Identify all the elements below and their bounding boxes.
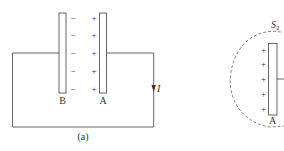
charge-plus: + bbox=[261, 74, 266, 84]
charge-plus: + bbox=[91, 48, 96, 58]
charge-plus: + bbox=[261, 59, 266, 69]
plate-a-label: A bbox=[99, 95, 107, 106]
surface-subscript: 2 bbox=[276, 24, 280, 32]
charge-minus: − bbox=[70, 30, 75, 40]
charge-minus: − bbox=[70, 13, 75, 23]
plate-a-right bbox=[269, 44, 278, 116]
plate-a bbox=[100, 13, 107, 93]
charge-plus: + bbox=[261, 89, 266, 99]
charge-plus: + bbox=[91, 66, 96, 76]
current-label: I bbox=[156, 83, 161, 94]
plate-a-charges: + + + + + bbox=[91, 13, 96, 94]
charge-minus: − bbox=[70, 84, 75, 94]
plate-b-label: B bbox=[59, 95, 66, 106]
plate-a-right-label: A bbox=[269, 115, 277, 126]
charge-minus: − bbox=[70, 48, 75, 58]
charge-plus: + bbox=[91, 13, 96, 23]
plate-b-charges: − − − − − bbox=[70, 13, 75, 94]
panel-a-caption: (a) bbox=[77, 131, 88, 143]
surface-label: S2 bbox=[271, 19, 280, 32]
charge-plus: + bbox=[91, 84, 96, 94]
panel-b: + + + + + A S2 bbox=[230, 19, 284, 127]
charge-plus: + bbox=[261, 104, 266, 114]
current-arrow-icon bbox=[152, 85, 156, 92]
charge-plus: + bbox=[261, 45, 266, 55]
wire-left bbox=[13, 53, 154, 127]
plate-b bbox=[59, 13, 66, 93]
capacitor-diagram: − − − − − + + + + + B A I (a) + + + + + … bbox=[0, 0, 284, 151]
circuit-panel-a bbox=[13, 13, 154, 127]
charge-plus: + bbox=[91, 30, 96, 40]
charge-minus: − bbox=[70, 66, 75, 76]
